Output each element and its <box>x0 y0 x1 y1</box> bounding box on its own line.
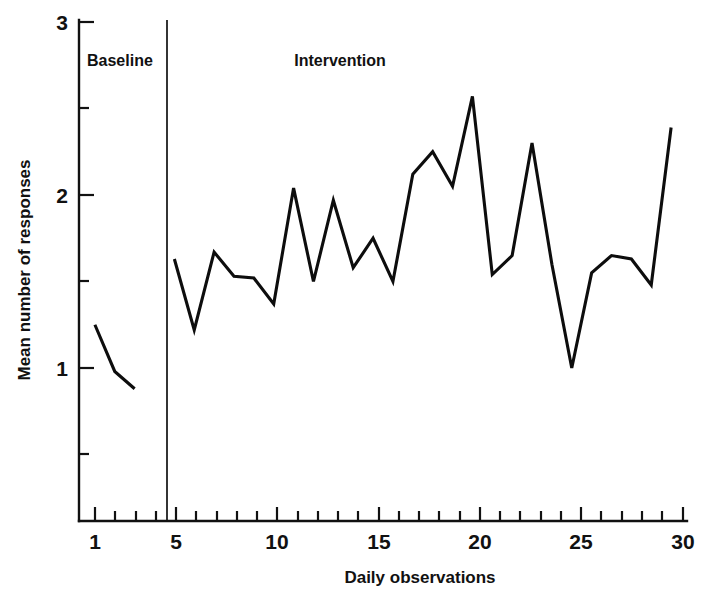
phase-label-baseline: Baseline <box>87 52 153 69</box>
y-tick-label-2: 2 <box>56 184 68 207</box>
chart-page: 3 2 1 <box>0 0 707 591</box>
y-axis-ticks <box>79 22 94 454</box>
y-axis-title: Mean number of responses <box>15 159 34 380</box>
x-tick-label-20: 20 <box>468 530 491 553</box>
x-axis-title: Daily observations <box>344 568 495 587</box>
line-chart: 3 2 1 <box>0 0 707 591</box>
y-tick-label-3: 3 <box>56 11 68 34</box>
phase-label-intervention: Intervention <box>294 52 386 69</box>
x-tick-label-15: 15 <box>367 530 391 553</box>
x-tick-label-10: 10 <box>265 530 288 553</box>
x-tick-label-1: 1 <box>89 530 101 553</box>
x-tick-label-30: 30 <box>671 530 694 553</box>
y-tick-label-1: 1 <box>56 357 68 380</box>
x-axis-ticks <box>95 507 683 521</box>
x-tick-label-25: 25 <box>569 530 593 553</box>
data-line-baseline <box>95 325 135 389</box>
data-line-intervention <box>174 96 671 368</box>
x-tick-label-5: 5 <box>170 530 182 553</box>
